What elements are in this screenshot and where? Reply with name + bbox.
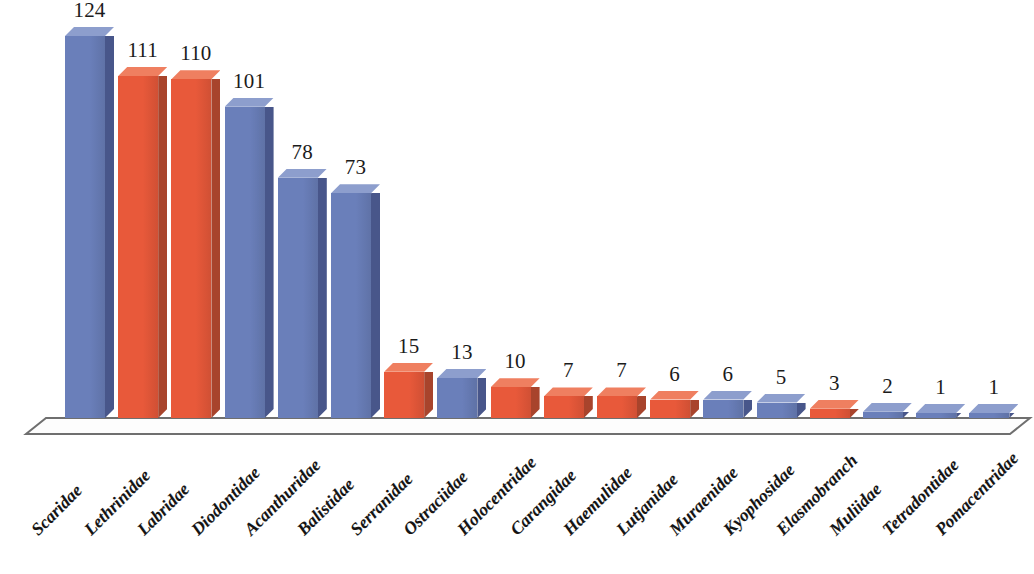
bar-carangidae[interactable] [544, 387, 593, 418]
bar-front-face [65, 36, 105, 418]
bar-side-face [211, 79, 220, 418]
bar-front-face [491, 387, 531, 418]
bar-side-face [690, 400, 699, 418]
bar-balistidae[interactable] [331, 184, 380, 418]
bar-value-label: 124 [49, 0, 130, 23]
bar-elasmobranch[interactable] [810, 400, 859, 418]
bar-kyophosidae[interactable] [757, 394, 806, 418]
bar-top-face [544, 387, 593, 396]
bar-side-face [903, 412, 912, 418]
bar-lutjanidae[interactable] [650, 391, 699, 418]
bar-lethrinidae[interactable] [118, 67, 167, 418]
bar-pomacentridae[interactable] [969, 404, 1018, 418]
bar-front-face [863, 412, 903, 418]
category-label-scaridae: Scaridae [27, 480, 87, 540]
bar-side-face [956, 413, 965, 418]
bar-side-face [637, 396, 646, 418]
bar-side-face [371, 193, 380, 418]
bar-front-face [703, 400, 743, 418]
bar-ostraciidae[interactable] [437, 369, 486, 418]
bar-side-face [743, 400, 752, 418]
bar-acanthuridae[interactable] [278, 169, 327, 418]
plot-area: 1241111101017873151310776653211 [0, 0, 1034, 440]
bar-top-face [118, 67, 167, 76]
bar-side-face [850, 409, 859, 418]
bar-value-label: 101 [209, 69, 290, 94]
bar-top-face [597, 387, 646, 396]
bar-front-face [650, 400, 690, 418]
bar-front-face [384, 372, 424, 418]
bar-front-face [544, 396, 584, 418]
bar-front-face [225, 107, 265, 418]
bar-front-face [278, 178, 318, 418]
bar-side-face [318, 178, 327, 418]
bar-value-label: 110 [155, 41, 236, 66]
bar-side-face [531, 387, 540, 418]
bar-top-face [703, 391, 752, 400]
bar-value-label: 1 [953, 375, 1034, 400]
bar-front-face [597, 396, 637, 418]
bar-side-face [1009, 413, 1018, 418]
bar-front-face [757, 403, 797, 418]
bar-side-face [797, 403, 806, 418]
bar-haemulidae[interactable] [597, 387, 646, 418]
bar-side-face [105, 36, 114, 418]
bar-side-face [158, 76, 167, 418]
bar-front-face [331, 193, 371, 418]
bar-top-face [650, 391, 699, 400]
bar-muliidae[interactable] [863, 403, 912, 418]
bar-chart: 1241111101017873151310776653211 Scaridae… [0, 0, 1034, 574]
bar-side-face [477, 378, 486, 418]
bar-front-face [118, 76, 158, 418]
bar-top-face [65, 27, 114, 36]
bar-scaridae[interactable] [65, 27, 114, 418]
bar-tetradontidae[interactable] [916, 404, 965, 418]
bar-front-face [916, 413, 956, 418]
bar-front-face [969, 413, 1009, 418]
bar-muraenidae[interactable] [703, 391, 752, 418]
bar-top-face [863, 403, 912, 412]
bar-value-label: 73 [315, 155, 396, 180]
bar-labridae[interactable] [171, 70, 220, 418]
category-labels: ScaridaeLethrinidaeLabridaeDiodontidaeAc… [0, 437, 1034, 574]
bar-top-face [225, 98, 274, 107]
bars-layer: 1241111101017873151310776653211 [0, 0, 1034, 440]
bar-side-face [424, 372, 433, 418]
bar-front-face [810, 409, 850, 418]
bar-top-face [969, 404, 1018, 413]
bar-top-face [331, 184, 380, 193]
bar-front-face [437, 378, 477, 418]
bar-holocentridae[interactable] [491, 378, 540, 418]
bar-top-face [916, 404, 965, 413]
bar-top-face [810, 400, 859, 409]
bar-serranidae[interactable] [384, 363, 433, 418]
bar-side-face [584, 396, 593, 418]
bar-front-face [171, 79, 211, 418]
